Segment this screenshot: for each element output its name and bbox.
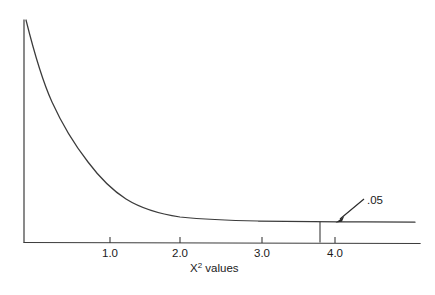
arrow-shaft [340,199,364,219]
x-tick-label-3: 3.0 [254,247,270,259]
x-axis-ticks [110,237,335,243]
x-tick-label-4: 4.0 [327,247,343,259]
x-axis-title-rest: values [202,262,239,274]
svg-text:X2 values: X2 values [190,261,239,274]
alpha-annotation-arrow [336,199,365,223]
chi-square-distribution-chart: 1.0 2.0 3.0 4.0 X2 values .05 [0,0,435,295]
x-axis-tick-labels: 1.0 2.0 3.0 4.0 [102,247,343,259]
alpha-level-label: .05 [367,194,383,206]
x-axis-title: X2 values [190,261,239,274]
x-tick-label-2: 2.0 [172,247,188,259]
x-axis [24,243,420,244]
chart-container: 1.0 2.0 3.0 4.0 X2 values .05 [0,0,435,295]
x-tick-label-1: 1.0 [102,247,118,259]
density-curve [26,20,415,222]
